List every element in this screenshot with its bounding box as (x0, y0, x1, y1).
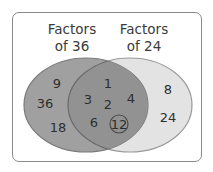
right-set-title-line2: of 24 (127, 38, 161, 54)
venn-diagram: Factors of 36 Factors of 24 9 36 18 1 3 … (0, 0, 213, 172)
intersection-item: 4 (127, 91, 135, 106)
right-only-item: 24 (160, 110, 177, 125)
left-set-title-line1: Factors (48, 21, 96, 37)
intersection-item: 1 (104, 76, 112, 91)
intersection-item: 6 (90, 115, 98, 130)
intersection-item: 2 (104, 97, 112, 112)
intersection-item-highlighted: 12 (111, 117, 128, 132)
right-only-item: 8 (164, 82, 172, 97)
left-only-item: 9 (53, 76, 61, 91)
left-only-item: 18 (50, 120, 67, 135)
right-set-title-line1: Factors (120, 21, 168, 37)
left-only-item: 36 (37, 96, 54, 111)
left-set-title-line2: of 36 (55, 38, 89, 54)
intersection-item: 3 (84, 92, 92, 107)
